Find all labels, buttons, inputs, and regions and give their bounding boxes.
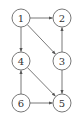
node-label: 5 — [59, 98, 65, 109]
node-2: 2 — [53, 9, 71, 27]
node-1: 1 — [12, 9, 30, 27]
nodes: 123456 — [12, 9, 71, 112]
node-3: 3 — [53, 52, 71, 70]
edge-1-to-3 — [27, 25, 55, 55]
node-6: 6 — [12, 94, 30, 112]
node-5: 5 — [53, 94, 71, 112]
directed-graph: 123456 — [0, 0, 82, 120]
node-label: 3 — [59, 56, 65, 67]
node-label: 2 — [59, 13, 65, 24]
node-label: 6 — [18, 98, 24, 109]
edge-4-to-5 — [27, 67, 55, 96]
graph-canvas: 123456 — [0, 0, 82, 120]
node-4: 4 — [12, 52, 30, 70]
node-label: 4 — [18, 56, 24, 67]
node-label: 1 — [18, 13, 24, 24]
